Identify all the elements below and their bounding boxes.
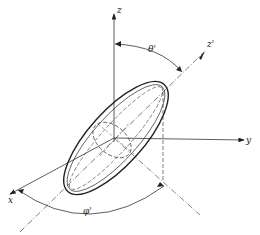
- theta-prime-label: θ': [148, 45, 156, 54]
- y-axis-label: y: [246, 136, 251, 145]
- z-prime-axis: [20, 52, 204, 232]
- phi-prime-label: φ': [83, 207, 92, 216]
- z-prime-axis-label: z': [207, 40, 214, 49]
- x-axis: [10, 138, 114, 194]
- x-axis-label: x: [8, 196, 13, 205]
- ellipsoid-diagram: z z' y x θ' φ': [0, 0, 260, 235]
- diagram-canvas: [0, 0, 260, 235]
- z-axis-label: z: [117, 6, 122, 15]
- projection-line: [114, 138, 200, 215]
